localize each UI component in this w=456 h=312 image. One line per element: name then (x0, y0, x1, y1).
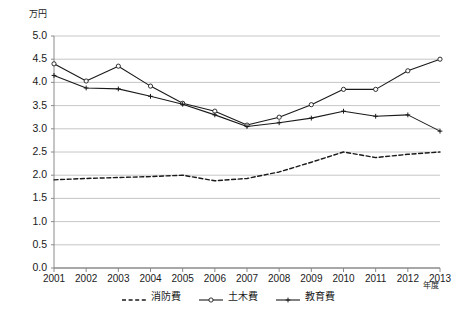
series-line-0 (54, 152, 440, 181)
data-point (373, 114, 378, 119)
x-axis-tick-label: 2010 (327, 273, 361, 284)
data-point (52, 62, 56, 66)
series-line-1 (54, 59, 440, 125)
y-axis-tick-label: 3.5 (21, 100, 47, 111)
y-axis-tick-label: 4.0 (21, 76, 47, 87)
data-point (405, 112, 410, 117)
data-point (52, 73, 57, 78)
data-point (406, 69, 410, 73)
line-chart: 万円 0.00.51.01.52.02.53.03.54.04.55.0 200… (0, 0, 456, 312)
chart-plot-area (0, 0, 456, 312)
x-axis-tick-label: 2002 (69, 273, 103, 284)
data-point (148, 84, 152, 88)
legend-label: 消防費 (151, 291, 181, 302)
x-axis-tick-label: 2004 (134, 273, 168, 284)
legend-item: 教育費 (275, 291, 335, 302)
data-point (84, 86, 89, 91)
y-axis-tick-label: 4.5 (21, 53, 47, 64)
legend-swatch-circle (198, 291, 224, 301)
x-axis-tick-label: 2009 (294, 273, 328, 284)
x-axis-tick-label: 2008 (262, 273, 296, 284)
data-point (148, 94, 153, 99)
y-axis-tick-label: 2.0 (21, 169, 47, 180)
legend-swatch-plus (275, 291, 301, 301)
x-axis-tick-label: 2007 (230, 273, 264, 284)
y-axis-tick-label: 0.0 (21, 262, 47, 273)
y-axis-tick-label: 5.0 (21, 30, 47, 41)
data-point (212, 112, 217, 117)
legend-swatch-dashed (121, 291, 147, 301)
x-axis-tick-label: 2006 (198, 273, 232, 284)
data-point (277, 120, 282, 125)
legend-item: 土木費 (198, 291, 258, 302)
y-axis-tick-label: 1.0 (21, 216, 47, 227)
data-point (341, 87, 345, 91)
x-axis-tick-label: 2003 (101, 273, 135, 284)
y-axis-tick-label: 1.5 (21, 192, 47, 203)
x-axis-tick-label: 2011 (359, 273, 393, 284)
data-point (309, 116, 314, 121)
legend-label: 教育費 (305, 291, 335, 302)
data-point (341, 109, 346, 114)
data-point (116, 86, 121, 91)
x-axis-tick-label: 2001 (37, 273, 71, 284)
data-point (374, 87, 378, 91)
data-point (116, 64, 120, 68)
legend-item: 消防費 (121, 291, 181, 302)
x-axis-tick-label: 2005 (166, 273, 200, 284)
data-point (438, 129, 443, 134)
data-point (309, 103, 313, 107)
legend-label: 土木費 (228, 291, 258, 302)
data-point (84, 79, 88, 83)
chart-legend: 消防費土木費教育費 (0, 286, 456, 306)
data-point (438, 57, 442, 61)
y-axis-tick-label: 2.5 (21, 146, 47, 157)
y-axis-tick-label: 3.0 (21, 123, 47, 134)
y-axis-tick-label: 0.5 (21, 239, 47, 250)
data-point (277, 115, 281, 119)
